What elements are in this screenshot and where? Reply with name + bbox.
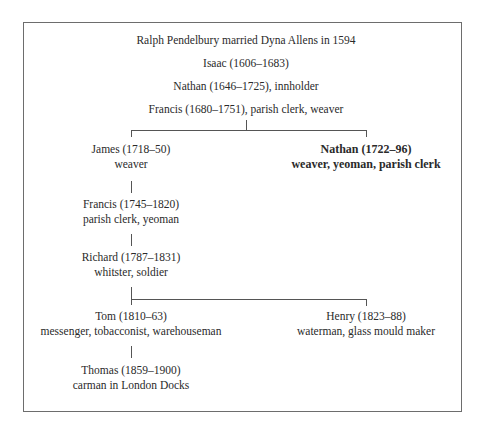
connector-stem (246, 120, 247, 130)
connector-branch (131, 130, 367, 131)
person-tom-name: Tom (1810–63) (95, 309, 167, 324)
person-richard-name: Richard (1787–1831) (82, 250, 181, 265)
person-henry-occupation: waterman, glass mould maker (297, 324, 435, 339)
person-richard-occupation: whitster, soldier (94, 265, 168, 280)
connector-richard-stem (131, 287, 132, 305)
person-james-occupation: weaver (114, 157, 147, 172)
person-francis-1745-occupation: parish clerk, yeoman (83, 212, 179, 227)
connector-richard-branch (131, 299, 367, 300)
person-nathan-1722-occupation: weaver, yeoman, parish clerk (291, 157, 440, 172)
connector-drop-henry (366, 299, 367, 306)
person-thomas-occupation: carman in London Docks (73, 378, 190, 393)
connector-francis-richard (131, 234, 132, 246)
connector-james-francis (131, 181, 132, 193)
person-henry-name: Henry (1823–88) (326, 309, 406, 324)
person-james-name: James (1718–50) (92, 142, 171, 157)
person-francis-1745-name: Francis (1745–1820) (83, 197, 179, 212)
person-nathan-1646: Nathan (1646–1725), innholder (173, 79, 318, 94)
connector-drop-left (131, 130, 132, 137)
person-nathan-1722-name: Nathan (1722–96) (320, 142, 411, 157)
person-isaac: Isaac (1606–1683) (203, 56, 289, 71)
person-thomas-name: Thomas (1859–1900) (81, 363, 180, 378)
person-tom-occupation: messenger, tobacconist, warehouseman (41, 324, 222, 339)
root-couple: Ralph Pendelbury married Dyna Allens in … (136, 33, 355, 48)
connector-tom-thomas (131, 346, 132, 358)
person-francis-1680: Francis (1680–1751), parish clerk, weave… (149, 102, 344, 117)
connector-drop-right (366, 130, 367, 137)
